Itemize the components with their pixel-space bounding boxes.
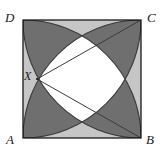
geometry-figure: D C A B X [0,0,166,156]
vertex-label-B: B [146,133,154,146]
vertex-label-D: D [5,11,14,24]
point-X-marker [36,78,38,80]
vertex-label-C: C [147,11,156,24]
point-label-X: X [24,70,31,83]
vertex-label-A: A [6,133,14,146]
